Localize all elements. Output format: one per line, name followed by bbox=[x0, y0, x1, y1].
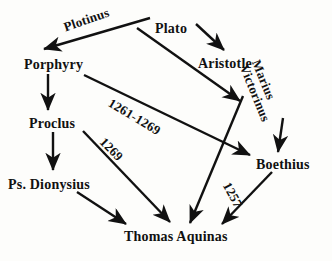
node-ps-dionysius[interactable]: Ps. Dionysius bbox=[8, 178, 90, 192]
node-boethius[interactable]: Boethius bbox=[256, 158, 310, 172]
node-thomas-aquinas[interactable]: Thomas Aquinas bbox=[124, 230, 228, 244]
node-proclus[interactable]: Proclus bbox=[29, 117, 75, 131]
node-porphyry[interactable]: Porphyry bbox=[24, 58, 83, 72]
edge-marius-boethius bbox=[278, 118, 283, 152]
genealogy-diagram: Plato Porphyry Aristotle Proclus Marius … bbox=[0, 0, 332, 261]
node-plato[interactable]: Plato bbox=[155, 22, 187, 36]
edge-plato-aristotle bbox=[196, 24, 224, 50]
edge-dionysius-aquinas bbox=[77, 192, 126, 224]
